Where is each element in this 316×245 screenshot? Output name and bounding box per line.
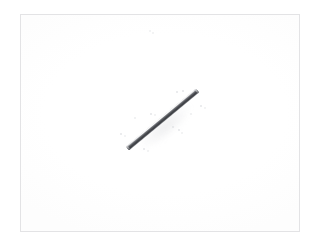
photo-viewer — [0, 0, 316, 245]
image-frame[interactable] — [20, 14, 300, 232]
